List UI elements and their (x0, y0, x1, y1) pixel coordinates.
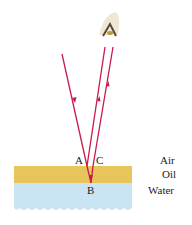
water-layer (14, 183, 132, 210)
incident-ray (62, 54, 87, 166)
oil-layer (14, 166, 132, 183)
eye-icon (99, 12, 119, 36)
oil-label: Oil (162, 169, 176, 180)
point-c-label: C (96, 155, 103, 166)
water-label: Water (148, 185, 174, 196)
point-b-label: B (87, 185, 94, 196)
air-label: Air (160, 155, 175, 166)
point-a-label: A (75, 155, 83, 166)
